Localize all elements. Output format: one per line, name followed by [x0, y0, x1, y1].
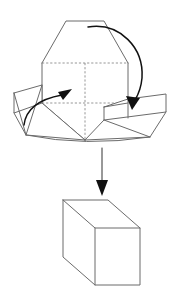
- transform-arrow-head: [96, 180, 108, 196]
- folded-cube-group: [63, 200, 140, 285]
- cube-front-face-fill: [95, 228, 140, 285]
- transform-arrow-group: [96, 148, 108, 196]
- cube-folding-diagram: [0, 0, 179, 294]
- net-face-fill-top: [42, 21, 128, 63]
- figure-container: [0, 0, 179, 294]
- unfolded-net-group: [14, 21, 166, 142]
